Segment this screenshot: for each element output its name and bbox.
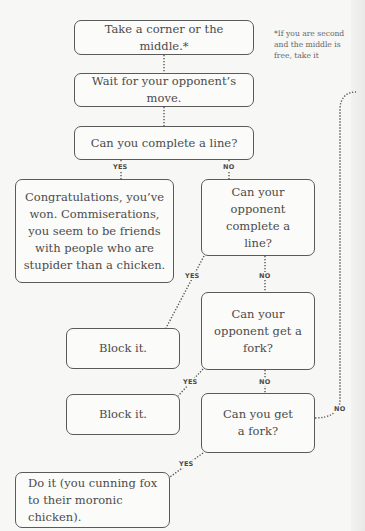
node-text: Wait for your opponent’s move. [81, 73, 247, 107]
label-yes: YES [112, 163, 128, 171]
label-yes: YES [182, 378, 198, 386]
node-do-it: Do it (you cunning fox to their moronic … [15, 472, 170, 528]
label-yes: YES [184, 272, 200, 280]
node-block-it-2: Block it. [66, 394, 180, 435]
connector-no-loop [315, 92, 356, 418]
node-text: Block it. [99, 340, 147, 357]
node-text: Can your opponent complete a line? [212, 184, 304, 252]
node-can-opponent-get-fork: Can your opponent get a fork? [201, 292, 315, 370]
footnote: *If you are second and the middle is fre… [274, 28, 354, 61]
node-text: Do it (you cunning fox to their moronic … [28, 475, 163, 526]
node-can-opponent-complete-line: Can your opponent complete a line? [201, 179, 315, 256]
label-no: NO [258, 378, 271, 386]
node-can-you-get-fork: Can you get a fork? [201, 393, 315, 453]
label-no: NO [222, 163, 235, 171]
node-start: Take a corner or the middle.* [74, 20, 254, 55]
node-text: Block it. [99, 406, 147, 423]
node-won: Congratulations, you’ve won. Commiserati… [15, 179, 174, 283]
node-can-you-complete-line: Can you complete a line? [74, 126, 254, 160]
node-text: Can your opponent get a fork? [212, 306, 304, 357]
label-no: NO [258, 272, 271, 280]
node-wait: Wait for your opponent’s move. [74, 73, 254, 107]
node-text: Take a corner or the middle.* [81, 21, 247, 55]
label-yes: YES [178, 460, 194, 468]
node-block-it-1: Block it. [66, 328, 180, 369]
node-text: Congratulations, you’ve won. Commiserati… [22, 189, 167, 274]
node-text: Can you get a fork? [220, 406, 296, 440]
label-no-loop: NO [333, 405, 346, 413]
node-text: Can you complete a line? [91, 135, 238, 152]
